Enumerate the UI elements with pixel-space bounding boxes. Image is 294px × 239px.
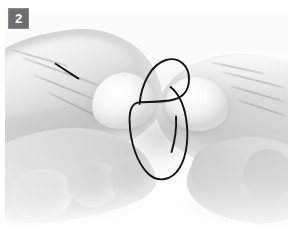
left-thumbnail-highlight [101,79,135,105]
fingertip-contact-shadow [123,107,195,171]
step-number-badge: 2 [8,8,29,29]
figure-root: 2 [0,0,294,239]
photograph [5,11,288,227]
step-number-label: 2 [15,12,22,25]
right-thumbnail-highlight [173,83,205,107]
